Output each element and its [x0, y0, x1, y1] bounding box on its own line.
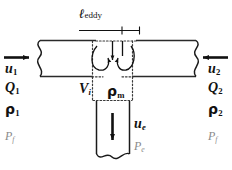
left-density-subscript: 1: [15, 108, 19, 118]
outlet-pressure-label: Pe: [134, 140, 145, 154]
outlet-pressure-subscript: e: [141, 145, 144, 154]
junction-volume-symbol: V: [79, 81, 88, 96]
right-density-symbol: ρ: [208, 101, 218, 117]
outlet-velocity-symbol: u: [134, 116, 142, 131]
mix-density-label: ρm: [107, 84, 124, 100]
right-velocity-label: u2: [208, 62, 220, 77]
left-velocity-subscript: 1: [13, 67, 17, 77]
right-velocity-subscript: 2: [216, 67, 220, 77]
left-pressure-label: Pf: [5, 130, 14, 144]
outflow-pipe-break-symbol: [97, 153, 130, 158]
eddy-length-label: ℓeddy: [79, 7, 102, 20]
right-pressure-subscript: f: [215, 135, 217, 144]
right-flowrate-label: Q2: [208, 81, 223, 96]
right-pressure-label: Pf: [208, 130, 217, 144]
right-flowrate-subscript: 2: [218, 86, 222, 96]
right-velocity-symbol: u: [208, 61, 216, 76]
left-density-label: ρ1: [5, 102, 20, 118]
right-pipe-break-symbol: [194, 41, 198, 77]
pipe-junction-diagram: ℓeddy u1 Q1 ρ1 Pf u2 Q2 ρ2 Pf Vi ρm ue P…: [0, 0, 232, 170]
eddy-length-subscript: eddy: [85, 10, 103, 20]
mix-density-symbol: ρ: [107, 83, 117, 99]
mix-density-subscript: m: [117, 90, 124, 100]
left-flowrate-label: Q1: [5, 81, 20, 96]
junction-volume-label: Vi: [79, 82, 91, 97]
junction-inlet-jet-arrows: [113, 41, 123, 60]
left-flowrate-subscript: 1: [15, 86, 19, 96]
left-pressure-subscript: f: [12, 135, 14, 144]
right-density-label: ρ2: [208, 102, 223, 118]
left-flowrate-symbol: Q: [5, 80, 15, 95]
right-flowrate-symbol: Q: [208, 80, 218, 95]
outlet-velocity-subscript: e: [142, 122, 146, 132]
left-velocity-label: u1: [5, 62, 17, 77]
left-pipe-break-symbol: [38, 41, 42, 77]
eddy-dimension-line: [79, 27, 140, 35]
junction-volume-subscript: i: [89, 87, 91, 97]
right-density-subscript: 2: [218, 108, 222, 118]
left-density-symbol: ρ: [5, 101, 15, 117]
outlet-velocity-label: ue: [134, 117, 146, 132]
left-velocity-symbol: u: [5, 61, 13, 76]
